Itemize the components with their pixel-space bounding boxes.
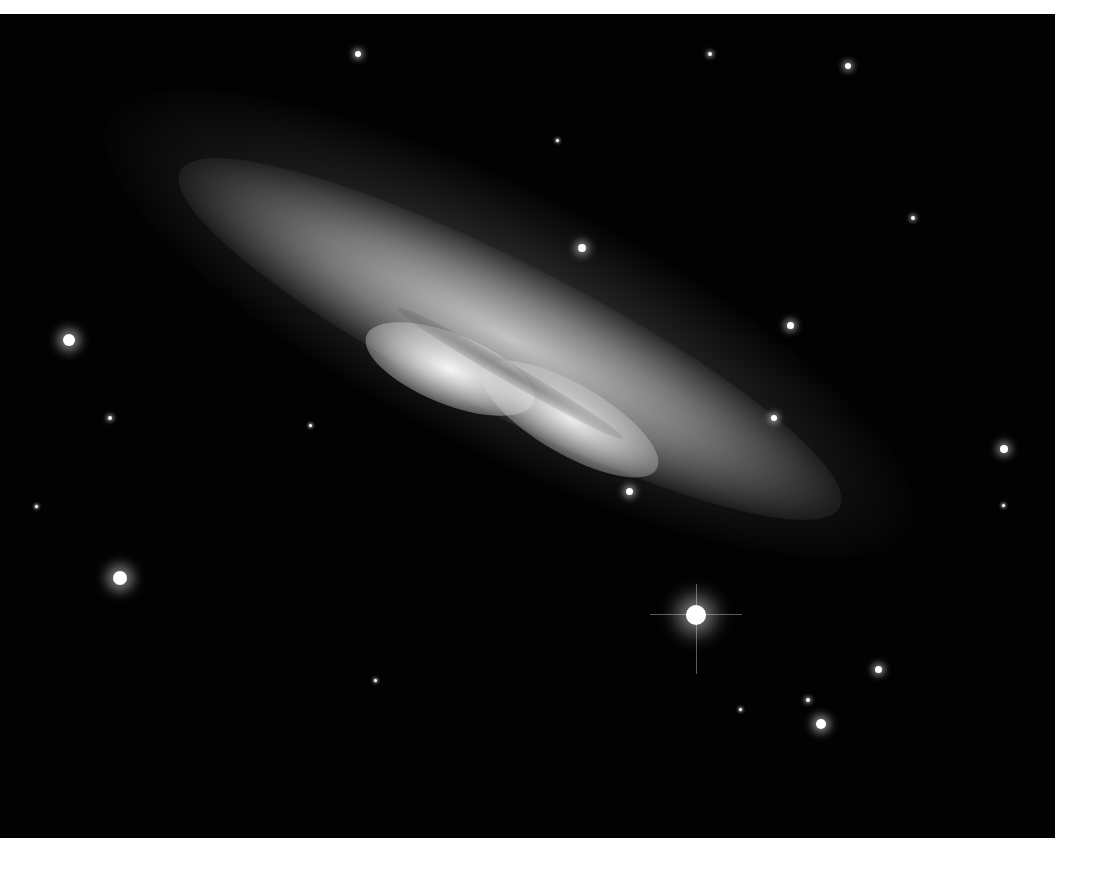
star xyxy=(578,244,586,252)
star xyxy=(911,216,915,220)
star xyxy=(309,424,312,427)
star xyxy=(355,51,361,57)
star xyxy=(1002,504,1005,507)
star xyxy=(374,679,377,682)
galaxy-photograph xyxy=(0,14,1055,838)
star xyxy=(806,698,810,702)
star xyxy=(35,505,38,508)
star xyxy=(787,322,794,329)
star xyxy=(875,666,882,673)
star xyxy=(626,488,633,495)
star xyxy=(771,415,777,421)
star xyxy=(556,139,559,142)
star xyxy=(63,334,75,346)
star xyxy=(686,605,706,625)
star xyxy=(845,63,851,69)
bright-star-spike-vertical xyxy=(696,584,697,674)
star xyxy=(113,571,127,585)
star xyxy=(1000,445,1008,453)
star xyxy=(108,416,112,420)
star xyxy=(739,708,742,711)
star xyxy=(816,719,826,729)
star xyxy=(708,52,712,56)
